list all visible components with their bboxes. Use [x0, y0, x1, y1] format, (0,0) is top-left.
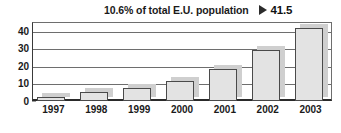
x-axis-tick-label: 1997: [42, 104, 64, 115]
x-axis-tick-label: 1998: [85, 104, 107, 115]
annotation-value: 41.5: [271, 4, 293, 16]
bar-body: [123, 88, 151, 101]
bar-1997: [37, 91, 72, 101]
x-axis-labels: 1997199819992000200120022003: [32, 104, 332, 120]
x-axis-tick-label: 2002: [257, 104, 279, 115]
bars-layer: [32, 22, 332, 101]
bar-2001: [209, 63, 244, 101]
x-axis-tick-label: 2000: [171, 104, 193, 115]
bar-2003: [295, 22, 330, 101]
annotation-label: 10.6% of total E.U. population: [104, 4, 249, 16]
y-axis-labels: 010203040: [2, 22, 29, 101]
y-axis-tick-label: 30: [5, 43, 29, 54]
bar-body: [252, 50, 280, 101]
right-triangle-icon: [259, 5, 267, 15]
bar-body: [80, 92, 108, 101]
bar-body: [37, 97, 65, 101]
x-axis-tick-label: 2003: [299, 104, 321, 115]
y-axis-tick-label: 20: [5, 60, 29, 71]
x-axis-tick-label: 1999: [128, 104, 150, 115]
x-axis-tick-label: 2001: [214, 104, 236, 115]
bar-2000: [166, 75, 201, 101]
chart-annotation: 10.6% of total E.U. population 41.5: [104, 2, 292, 17]
bar-body: [209, 69, 237, 101]
bar-body: [166, 81, 194, 101]
bar-1998: [80, 86, 115, 101]
bar-body: [295, 28, 323, 101]
y-axis-tick-label: 40: [5, 25, 29, 36]
bar-chart: 10.6% of total E.U. population 41.5 0102…: [0, 0, 341, 133]
y-axis-tick-label: 10: [5, 78, 29, 89]
bar-1999: [123, 82, 158, 101]
y-axis-tick-label: 0: [5, 96, 29, 107]
bar-2002: [252, 44, 287, 101]
